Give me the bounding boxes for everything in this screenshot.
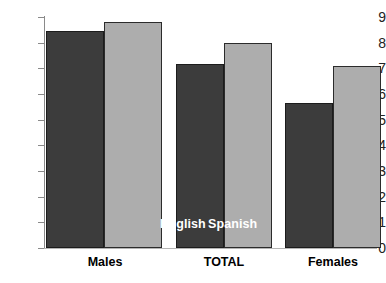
y-tick-2 bbox=[38, 197, 44, 198]
y-tick-0 bbox=[38, 248, 44, 249]
y-tick-7 bbox=[38, 68, 44, 69]
bar-males-english[interactable] bbox=[46, 31, 104, 248]
y-tick-9 bbox=[38, 17, 44, 18]
y-tick-6 bbox=[38, 94, 44, 95]
legend-label-spanish: Spanish bbox=[208, 218, 257, 231]
bars-layer bbox=[45, 17, 381, 248]
bar-males-spanish[interactable] bbox=[104, 22, 162, 248]
category-label-females: Females bbox=[285, 256, 381, 269]
bar-females-english[interactable] bbox=[285, 103, 333, 248]
bar-chart: 9 8 7 6 5 4 3 2 1 0 English Spanish Ma bbox=[0, 0, 386, 283]
legend-label-english: English bbox=[160, 218, 206, 231]
y-tick-3 bbox=[38, 171, 44, 172]
x-axis-baseline bbox=[44, 248, 377, 249]
category-label-males: Males bbox=[46, 256, 164, 269]
y-tick-5 bbox=[38, 120, 44, 121]
category-label-total: TOTAL bbox=[176, 256, 272, 269]
y-tick-8 bbox=[38, 43, 44, 44]
bar-females-spanish[interactable] bbox=[333, 66, 381, 248]
y-tick-1 bbox=[38, 222, 44, 223]
y-tick-4 bbox=[38, 145, 44, 146]
